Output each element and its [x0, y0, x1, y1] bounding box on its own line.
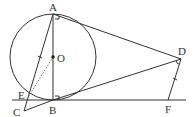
point-o: [51, 55, 55, 59]
label-c: C: [13, 106, 20, 117]
label-a: A: [49, 1, 57, 13]
segment-df: [168, 59, 181, 100]
angle-mark-d: [176, 61, 179, 64]
segment-ac: [24, 14, 53, 111]
segment-ad: [53, 14, 181, 59]
label-b: B: [49, 104, 56, 116]
label-f: F: [165, 103, 171, 115]
geometry-figure: A O B C D E F: [0, 0, 193, 117]
label-e: E: [18, 89, 25, 101]
segment-oe: [27, 57, 53, 99]
right-angle-a: [55, 16, 59, 19]
segment-bd: [53, 59, 181, 100]
label-d: D: [178, 45, 186, 57]
label-o: O: [57, 52, 65, 64]
